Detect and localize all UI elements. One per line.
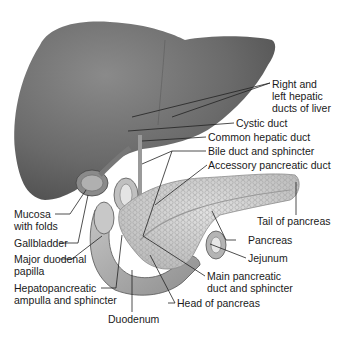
label-line: Right and: [272, 78, 331, 90]
label-line: Hepatopancreatic: [14, 282, 117, 294]
label-common-hepatic-duct: Common hepatic duct: [208, 131, 310, 143]
label-line: Mucosa: [14, 208, 58, 220]
label-head-of-pancreas: Head of pancreas: [177, 297, 260, 309]
label-tail-of-pancreas: Tail of pancreas: [257, 215, 331, 227]
label-main-pancreatic-duct: Main pancreatic duct and sphincter: [207, 270, 293, 294]
label-line: ducts of liver: [272, 102, 331, 114]
jejunum: [206, 231, 226, 259]
label-jejunum: Jejunum: [248, 252, 288, 264]
label-pancreas: Pancreas: [248, 234, 292, 246]
label-bile-duct: Bile duct and sphincter: [208, 145, 314, 157]
label-line: Major duodenal: [14, 253, 86, 265]
label-duodenum: Duodenum: [108, 313, 159, 325]
label-mucosa-with-folds: Mucosa with folds: [14, 208, 58, 232]
label-cystic-duct: Cystic duct: [236, 117, 287, 129]
liver: [14, 22, 275, 200]
label-gallbladder: Gallbladder: [14, 237, 68, 249]
label-line: papilla: [14, 265, 86, 277]
label-line: ampulla and sphincter: [14, 294, 117, 306]
label-line: with folds: [14, 220, 58, 232]
label-hepatopancreatic-ampulla: Hepatopancreatic ampulla and sphincter: [14, 282, 117, 306]
label-line: left hepatic: [272, 90, 331, 102]
label-major-duodenal-papilla: Major duodenal papilla: [14, 253, 86, 277]
label-accessory-pancreatic-duct: Accessory pancreatic duct: [208, 159, 331, 171]
label-right-left-hepatic-ducts: Right and left hepatic ducts of liver: [272, 78, 331, 114]
label-line: Main pancreatic: [207, 270, 293, 282]
label-line: duct and sphincter: [207, 282, 293, 294]
